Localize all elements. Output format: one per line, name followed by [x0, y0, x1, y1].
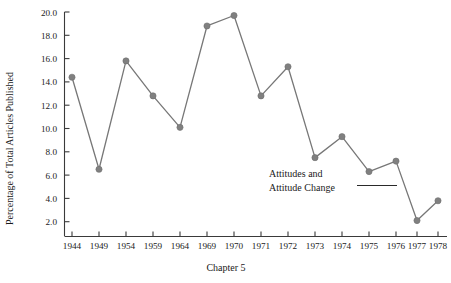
y-tick-label: 2.0: [46, 217, 58, 227]
callout-line-1: Attitudes and: [269, 168, 323, 179]
x-tick-label: 1969: [198, 241, 217, 251]
data-point: [150, 93, 156, 99]
line-chart: Percentage of Total Articles Published 2…: [0, 0, 451, 283]
x-tick-label: 1974: [333, 241, 352, 251]
x-tick-label: 1949: [90, 241, 109, 251]
x-axis-ticks: [72, 232, 438, 237]
x-tick-label: 1976: [387, 241, 406, 251]
data-point: [435, 198, 441, 204]
x-tick-labels: 1944 1949 1954 1959 1964 1969 1970 1971 …: [63, 241, 448, 251]
x-tick-label: 1977: [408, 241, 427, 251]
y-tick-label: 10.0: [41, 124, 57, 134]
data-point: [258, 93, 264, 99]
x-tick-label: 1972: [279, 241, 298, 251]
x-tick-label: 1973: [306, 241, 325, 251]
callout-line-2: Attitude Change: [269, 182, 335, 193]
data-point: [177, 124, 183, 130]
y-tick-label: 18.0: [41, 31, 57, 41]
data-point: [96, 166, 102, 172]
y-tick-labels: 20.0 18.0 16.0 14.0 12.0 10.0 8.0 6.0 4.…: [41, 8, 57, 228]
y-tick-label: 4.0: [46, 194, 58, 204]
x-tick-label: 1954: [117, 241, 136, 251]
data-point: [339, 134, 345, 140]
x-tick-label: 1964: [171, 241, 190, 251]
y-tick-label: 16.0: [41, 54, 57, 64]
x-tick-label: 1959: [144, 241, 163, 251]
y-tick-label: 14.0: [41, 77, 57, 87]
y-tick-label: 8.0: [46, 147, 58, 157]
y-axis-title: Percentage of Total Articles Published: [4, 72, 15, 225]
y-tick-label: 6.0: [46, 171, 58, 181]
data-point: [204, 23, 210, 29]
x-axis-title: Chapter 5: [206, 262, 245, 273]
chart-container: Percentage of Total Articles Published 2…: [0, 0, 451, 283]
data-point: [414, 217, 420, 223]
data-point: [69, 74, 75, 80]
x-tick-label: 1975: [360, 241, 379, 251]
data-point: [366, 169, 372, 175]
x-tick-label: 1978: [429, 241, 448, 251]
data-point-markers: [69, 12, 441, 223]
data-line-series: [72, 16, 438, 221]
data-point: [123, 58, 129, 64]
data-point: [231, 12, 237, 18]
data-point: [312, 155, 318, 161]
x-tick-label: 1944: [63, 241, 82, 251]
data-point: [285, 64, 291, 70]
x-tick-label: 1971: [252, 241, 271, 251]
x-tick-label: 1970: [225, 241, 244, 251]
y-axis-ticks: [65, 12, 70, 222]
y-tick-label: 12.0: [41, 101, 57, 111]
y-tick-label: 20.0: [41, 8, 57, 18]
data-point: [393, 158, 399, 164]
